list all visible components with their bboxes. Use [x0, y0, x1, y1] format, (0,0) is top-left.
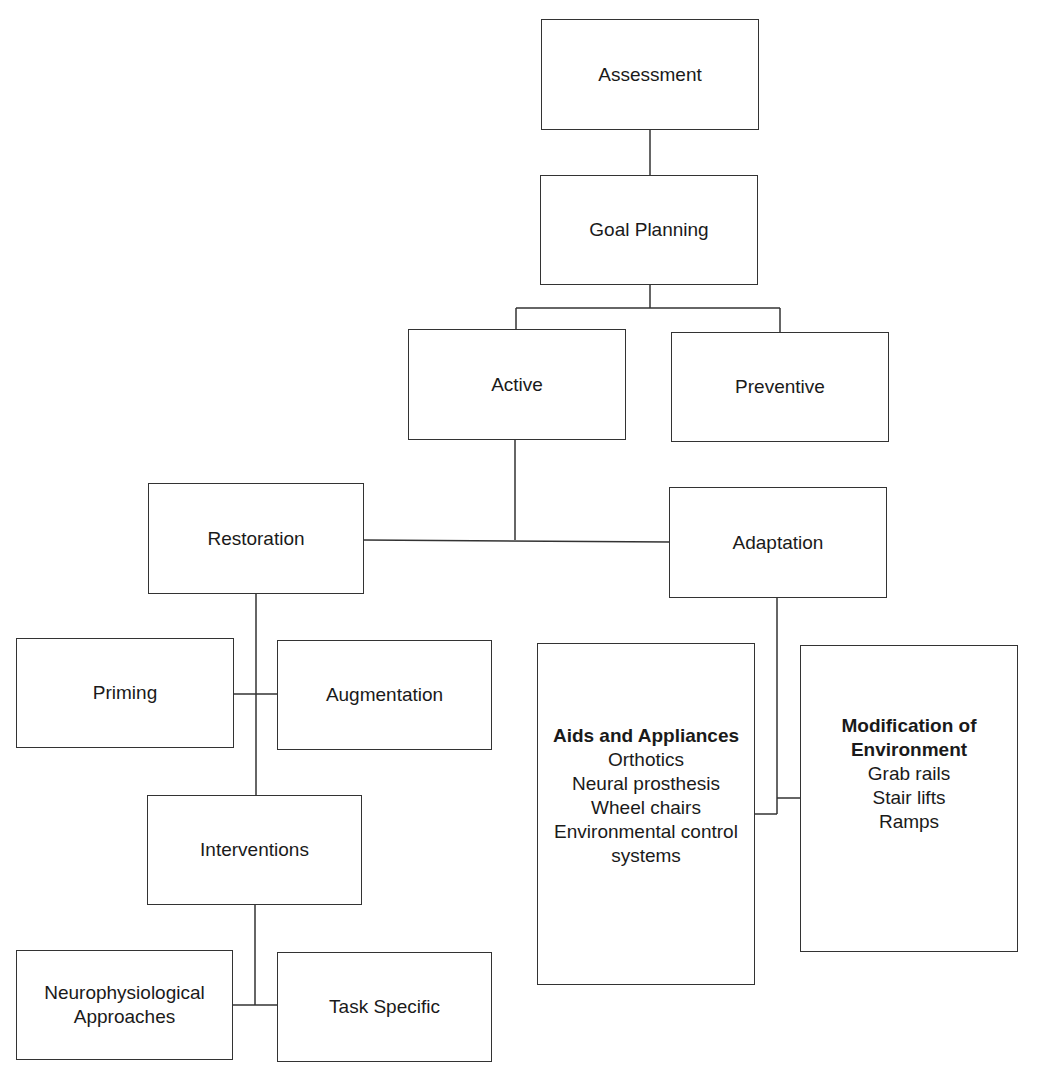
node-label: Priming — [93, 681, 157, 705]
node-label: Adaptation — [733, 531, 824, 555]
node-title-line1: Modification of — [841, 714, 976, 738]
node-item: Ramps — [879, 810, 939, 834]
node-label: Active — [491, 373, 543, 397]
node-label: Augmentation — [326, 683, 443, 707]
node-item: Grab rails — [868, 762, 950, 786]
node-assessment: Assessment — [541, 19, 759, 130]
node-label: Goal Planning — [589, 218, 708, 242]
node-item: Environmental control — [554, 820, 738, 844]
node-title-line2: Environment — [851, 738, 967, 762]
node-aids-and-appliances: Aids and Appliances Orthotics Neural pro… — [537, 643, 755, 985]
node-modification-of-environment: Modification of Environment Grab rails S… — [800, 645, 1018, 952]
node-preventive: Preventive — [671, 332, 889, 442]
node-goal-planning: Goal Planning — [540, 175, 758, 285]
node-title: Aids and Appliances — [553, 724, 739, 748]
node-item: Orthotics — [608, 748, 684, 772]
node-restoration: Restoration — [148, 483, 364, 594]
node-label: Task Specific — [329, 995, 440, 1019]
node-adaptation: Adaptation — [669, 487, 887, 598]
node-label: Restoration — [207, 527, 304, 551]
node-augmentation: Augmentation — [277, 640, 492, 750]
node-item: Wheel chairs — [591, 796, 701, 820]
node-active: Active — [408, 329, 626, 440]
node-item: Neural prosthesis — [572, 772, 720, 796]
node-interventions: Interventions — [147, 795, 362, 905]
node-label-line2: Approaches — [74, 1005, 175, 1029]
node-task-specific: Task Specific — [277, 952, 492, 1062]
node-label: Assessment — [598, 63, 701, 87]
node-label-line1: Neurophysiological — [44, 981, 205, 1005]
node-item: Stair lifts — [873, 786, 946, 810]
node-item: systems — [611, 844, 681, 868]
node-label: Preventive — [735, 375, 825, 399]
node-neurophysiological-approaches: Neurophysiological Approaches — [16, 950, 233, 1060]
node-label: Interventions — [200, 838, 309, 862]
node-priming: Priming — [16, 638, 234, 748]
